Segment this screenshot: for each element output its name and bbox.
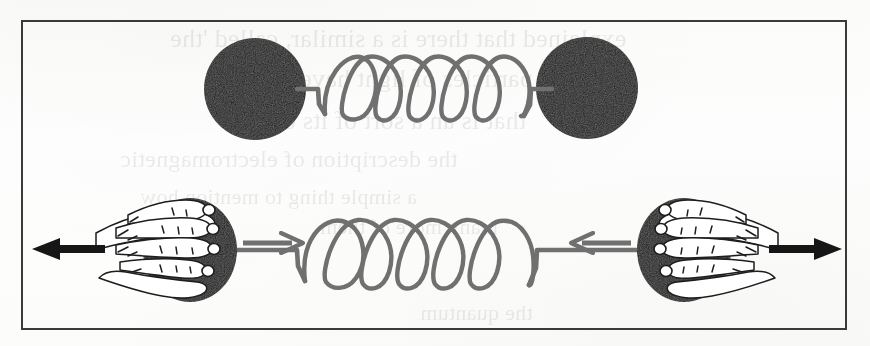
figure-frame <box>21 20 847 330</box>
figure-root: explained that there is a similar, calle… <box>0 0 870 346</box>
